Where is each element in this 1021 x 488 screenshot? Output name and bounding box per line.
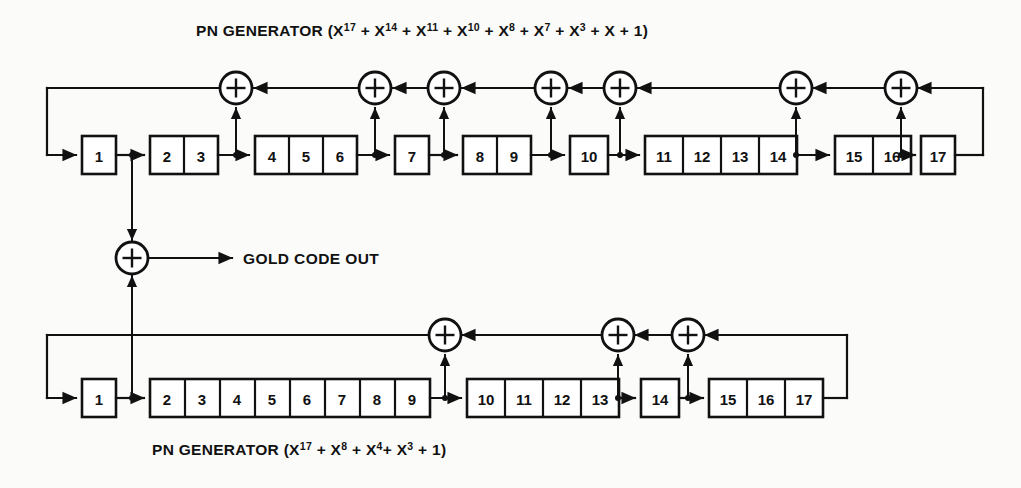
top-cell-16: 16 [884,148,901,165]
bottom-cell-17: 17 [796,391,813,408]
bottom-cell-10: 10 [478,391,495,408]
top-generator-caption: PN GENERATOR (X17 + X14 + X11 + X10 + X8… [196,21,648,39]
top-cell-3: 3 [197,148,205,165]
bottom-cell-5: 5 [268,391,276,408]
top-cell-11: 11 [656,148,672,165]
bottom-generator-caption: PN GENERATOR (X17 + X8 + X4+ X3 + 1) [152,440,446,458]
bottom-caption-name: PN GENERATOR (X [152,441,300,458]
bottom-cell-9: 9 [408,391,416,408]
top-caption-name: PN GENERATOR (X [196,22,344,39]
top-cell-9: 9 [510,148,518,165]
top-cell-13: 13 [732,148,749,165]
top-cell-6: 6 [336,148,344,165]
top-cell-14: 14 [770,148,787,165]
bottom-cell-15: 15 [720,391,737,408]
top-cell-7: 7 [408,148,416,165]
top-cell-4: 4 [268,148,277,165]
xor-gate [359,72,391,104]
bottom-cell-13: 13 [592,391,609,408]
diagram-canvas: 1 2 3 4 5 6 7 8 9 10 [0,0,1021,488]
bottom-cell-1: 1 [95,391,103,408]
top-cell-1: 1 [95,148,103,165]
top-cell-2: 2 [163,148,171,165]
xor-gate [429,319,461,351]
gold-xor-gate [116,242,148,274]
bottom-cell-7: 7 [338,391,346,408]
xor-gate [672,319,704,351]
pn-gold-code-generator-diagram: 1 2 3 4 5 6 7 8 9 10 [0,0,1021,488]
bottom-cell-8: 8 [373,391,381,408]
top-cell-10: 10 [581,148,598,165]
xor-gate [535,72,567,104]
gold-code-section [116,152,232,401]
xor-gate [220,72,252,104]
bottom-cell-4: 4 [233,391,242,408]
top-cell-17: 17 [930,148,947,165]
xor-gate [602,319,634,351]
bottom-cell-11: 11 [516,391,532,408]
xor-gate [604,72,636,104]
top-cell-12: 12 [694,148,711,165]
top-cell-8: 8 [476,148,484,165]
xor-gate [780,72,812,104]
xor-gate [885,72,917,104]
top-cell-15: 15 [846,148,863,165]
bottom-cell-16: 16 [758,391,775,408]
bottom-cell-3: 3 [198,391,206,408]
bottom-cell-6: 6 [303,391,311,408]
xor-gate [428,72,460,104]
bottom-cell-12: 12 [554,391,571,408]
top-cell-5: 5 [302,148,310,165]
bottom-cell-14: 14 [652,391,669,408]
bottom-cell-2: 2 [163,391,171,408]
gold-code-out-label: GOLD CODE OUT [243,250,379,267]
